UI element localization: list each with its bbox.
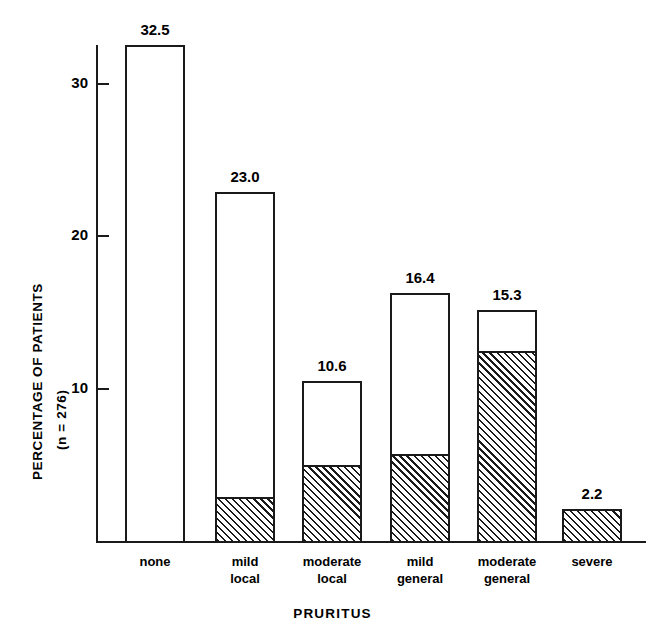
bar-value-mild-general: 16.4	[390, 270, 450, 285]
x-tick-label-severe: severe	[552, 553, 632, 570]
y-tick-label-20: 20	[48, 227, 88, 242]
x-tick-label-moderate-general: moderate general	[462, 553, 552, 587]
x-tick-label-mild-local-line1: mild	[205, 553, 285, 570]
x-tick-label-mild-local: mild local	[205, 553, 285, 587]
x-tick-label-moderate-general-line1: moderate	[462, 553, 552, 570]
chart-figure: PERCENTAGE OF PATIENTS (n = 276) 10 20 3…	[0, 0, 665, 637]
bar-mild-general	[390, 293, 450, 543]
bar-mild-local	[215, 192, 275, 543]
bar-mild-general-hatch	[392, 454, 448, 541]
x-tick-label-moderate-local-line1: moderate	[287, 553, 377, 570]
x-tick-label-mild-general: mild general	[378, 553, 462, 587]
x-tick-label-severe-line1: severe	[552, 553, 632, 570]
bar-moderate-general-hatch	[479, 351, 535, 541]
bar-severe-hatch	[564, 511, 620, 541]
bar-mild-local-hatch	[217, 497, 273, 541]
y-axis-line	[96, 45, 98, 543]
bar-value-moderate-local: 10.6	[302, 358, 362, 373]
y-tick-label-10: 10	[48, 380, 88, 395]
bar-value-severe: 2.2	[562, 486, 622, 501]
bar-moderate-general	[477, 310, 537, 543]
x-tick-label-mild-local-line2: local	[205, 570, 285, 587]
y-tick-label-30: 30	[48, 75, 88, 90]
bar-severe	[562, 509, 622, 543]
bar-moderate-local	[302, 381, 362, 543]
x-tick-label-none-line1: none	[115, 553, 195, 570]
x-tick-label-moderate-general-line2: general	[462, 570, 552, 587]
x-tick-label-moderate-local: moderate local	[287, 553, 377, 587]
bar-value-moderate-general: 15.3	[477, 287, 537, 302]
y-tick-20	[98, 235, 109, 237]
x-tick-label-mild-general-line1: mild	[378, 553, 462, 570]
bar-none	[125, 45, 185, 543]
y-tick-10	[98, 388, 109, 390]
bar-value-mild-local: 23.0	[215, 169, 275, 184]
x-axis-title: PRURITUS	[0, 606, 665, 621]
bar-value-none: 32.5	[125, 22, 185, 37]
plot-area: 10 20 30 32.5 23.0 10.6 16.4	[0, 0, 665, 637]
y-tick-30	[98, 83, 109, 85]
bar-moderate-local-hatch	[304, 465, 360, 541]
x-tick-label-none: none	[115, 553, 195, 570]
x-tick-label-moderate-local-line2: local	[287, 570, 377, 587]
x-tick-label-mild-general-line2: general	[378, 570, 462, 587]
